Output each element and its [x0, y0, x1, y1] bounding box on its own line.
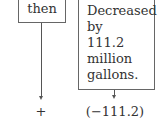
decreased-label: Decreased by 111.2 million gallons. [87, 3, 157, 83]
plus-sign: + [31, 104, 51, 120]
decreased-box: Decreased by 111.2 million gallons. [78, 0, 155, 90]
then-label: then [19, 1, 65, 17]
right-arrow-icon [112, 95, 116, 99]
left-connector-line [41, 23, 42, 97]
left-arrow-icon [39, 96, 43, 100]
negative-value: (−111.2) [84, 104, 146, 120]
then-box: then [18, 0, 66, 23]
